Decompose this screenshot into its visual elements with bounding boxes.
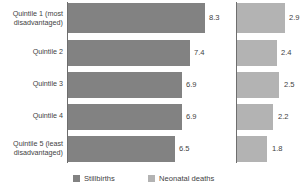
bar-neonatal-quintile-5 bbox=[237, 136, 267, 162]
category-label-quintile-3: Quintile 3 bbox=[33, 80, 63, 89]
category-label-quintile-2: Quintile 2 bbox=[33, 48, 63, 57]
legend-label-stillbirths: Stillbirths bbox=[84, 174, 115, 183]
legend-item-neonatal-deaths[interactable]: Neonatal deaths bbox=[148, 174, 214, 183]
bar-stillbirths-quintile-5 bbox=[68, 136, 175, 162]
category-label-quintile-1: Quintile 1 (most disadvantaged) bbox=[13, 10, 63, 27]
value-label-stillbirths-quintile-5: 6.5 bbox=[179, 144, 190, 153]
value-label-stillbirths-quintile-2: 7.4 bbox=[194, 48, 205, 57]
bar-neonatal-quintile-2 bbox=[237, 40, 277, 66]
chart-legend: Stillbirths Neonatal deaths bbox=[0, 170, 307, 188]
value-label-stillbirths-quintile-1: 8.3 bbox=[209, 13, 220, 22]
value-label-stillbirths-quintile-4: 6.9 bbox=[186, 112, 197, 121]
legend-swatch-stillbirths bbox=[73, 175, 80, 182]
bar-neonatal-quintile-4 bbox=[237, 104, 273, 130]
bar-chart: Quintile 1 (most disadvantaged) Quintile… bbox=[0, 0, 307, 188]
value-label-neonatal-quintile-1: 2.9 bbox=[289, 13, 300, 22]
legend-item-stillbirths[interactable]: Stillbirths bbox=[73, 174, 115, 183]
bar-stillbirths-quintile-4 bbox=[68, 104, 182, 130]
value-label-stillbirths-quintile-3: 6.9 bbox=[186, 80, 197, 89]
bar-neonatal-quintile-1 bbox=[237, 3, 285, 33]
category-label-quintile-4: Quintile 4 bbox=[33, 112, 63, 121]
category-label-quintile-5: Quintile 5 (least disadvantaged) bbox=[13, 140, 63, 157]
bar-stillbirths-quintile-3 bbox=[68, 72, 182, 98]
legend-label-neonatal-deaths: Neonatal deaths bbox=[159, 174, 214, 183]
value-label-neonatal-quintile-3: 2.5 bbox=[284, 80, 295, 89]
value-label-neonatal-quintile-4: 2.2 bbox=[278, 112, 289, 121]
plot-area: Quintile 1 (most disadvantaged) Quintile… bbox=[0, 0, 307, 165]
value-label-neonatal-quintile-5: 1.8 bbox=[272, 144, 283, 153]
bar-neonatal-quintile-3 bbox=[237, 72, 279, 98]
category-axis-labels: Quintile 1 (most disadvantaged) Quintile… bbox=[0, 0, 66, 165]
bar-stillbirths-quintile-1 bbox=[68, 3, 205, 33]
bar-stillbirths-quintile-2 bbox=[68, 40, 190, 66]
legend-swatch-neonatal-deaths bbox=[148, 175, 155, 182]
value-label-neonatal-quintile-2: 2.4 bbox=[281, 48, 292, 57]
